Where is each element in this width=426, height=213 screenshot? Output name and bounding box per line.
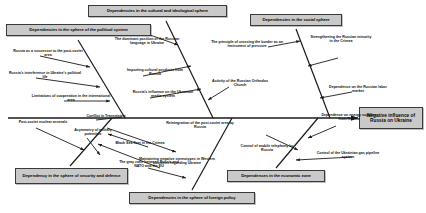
fishbone-diagram: Dependencies in the sphere of the politi… bbox=[0, 0, 426, 213]
cause-cultural-1: The dominant position of the Russian lan… bbox=[113, 38, 181, 46]
cause-foreign-1: Reintegration of the post-soviet area by… bbox=[165, 122, 235, 130]
cause-cultural-3: Russia's influence on the Ukrainian medi… bbox=[130, 91, 196, 99]
cause-security-1: Post-soviet nuclear arsenals bbox=[12, 121, 74, 125]
category-label-social: Dependencies in the social sphere bbox=[262, 18, 329, 23]
cause-foreign-2: Maintaining negative stereotypes in West… bbox=[136, 158, 218, 166]
cause-social-3: Dependence on the Russian labor market bbox=[325, 86, 391, 94]
category-box-political[interactable]: Dependencies in the sphere of the politi… bbox=[6, 24, 151, 36]
cause-security-2: Asymmetry of military potentials bbox=[70, 129, 116, 137]
cause-cultural-2: Importing cultural products from Russia bbox=[124, 69, 186, 77]
category-label-cultural: Dependencies in the cultural and ideolog… bbox=[107, 9, 208, 14]
category-label-foreign-policy: Dependencies in the sphere of foreign po… bbox=[148, 196, 235, 201]
cause-cultural-4: Activity of the Russian Orthodox Church bbox=[210, 80, 270, 88]
cause-political-1: Russia as a successor to the post-soviet… bbox=[12, 50, 84, 58]
cause-economic-1: Control of mobile telephony by Russia bbox=[236, 145, 298, 153]
cause-social-2: Strengthening the Russian minority in th… bbox=[310, 36, 372, 44]
category-box-cultural[interactable]: Dependencies in the cultural and ideolog… bbox=[88, 5, 227, 17]
category-box-security[interactable]: Dependency in the sphere of security and… bbox=[15, 168, 128, 184]
cause-security-3: Black Sea fleet in the Crimea bbox=[110, 142, 170, 146]
cause-economic-2: Dependence on energy supplies from Russi… bbox=[318, 114, 380, 122]
category-label-economic: Dependences in the economic zone bbox=[241, 174, 311, 179]
cause-social-1: The principle of crossing the border as … bbox=[208, 41, 286, 49]
category-label-political: Dependencies in the sphere of the politi… bbox=[29, 28, 127, 33]
category-box-foreign-policy[interactable]: Dependencies in the sphere of foreign po… bbox=[129, 192, 255, 204]
category-box-economic[interactable]: Dependences in the economic zone bbox=[227, 170, 325, 182]
category-label-security: Dependency in the sphere of security and… bbox=[23, 174, 121, 179]
category-box-social[interactable]: Dependencies in the social sphere bbox=[250, 14, 342, 26]
cause-political-2: Russia's interference in Ukraine's polit… bbox=[8, 72, 82, 80]
cause-economic-3: Control of the Ukrainian gas pipeline sy… bbox=[316, 152, 380, 160]
cause-political-3: Limitations of cooperation in the intern… bbox=[30, 95, 112, 103]
cause-political-4: Conflict in Transnistria bbox=[78, 115, 134, 119]
